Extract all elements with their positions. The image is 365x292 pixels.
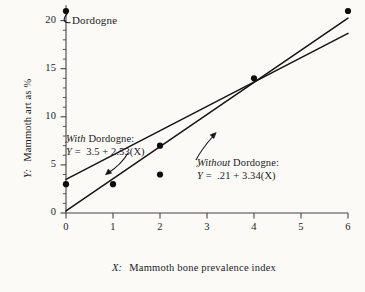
- without-dordogne-equation: ̂Y = .21 + 3.34(X): [197, 170, 279, 182]
- y-axis-variable: Y:: [22, 169, 33, 178]
- data-point: [251, 75, 257, 81]
- x-axis-description: Mammoth bone prevalence index: [129, 262, 276, 273]
- with-dordogne-equation-rest: = 3.5 + 2.53(X): [72, 146, 145, 157]
- x-tick-label: 5: [286, 221, 316, 233]
- plot-canvas: [0, 0, 365, 292]
- without-dordogne-equation-rest: = .21 + 3.34(X): [203, 170, 276, 181]
- data-point: [63, 181, 69, 187]
- data-point: [110, 181, 116, 187]
- x-tick-label: 0: [51, 221, 81, 233]
- x-tick-label: 6: [333, 221, 363, 233]
- with-dordogne-annotation: With Dordogne:̂Y = 3.5 + 2.53(X): [66, 133, 145, 159]
- with-dordogne-emphasis: With: [66, 133, 86, 144]
- x-tick-label: 4: [239, 221, 269, 233]
- without-dordogne-title-rest: Dordogne:: [230, 157, 279, 168]
- y-tick-label: 0: [18, 206, 56, 218]
- x-tick-label: 3: [192, 221, 222, 233]
- y-hat-symbol: ̂Y: [66, 146, 72, 157]
- y-tick-label: 20: [18, 14, 56, 26]
- with-dordogne-equation: ̂Y = 3.5 + 2.53(X): [66, 146, 145, 158]
- tick-mark-layer: [61, 11, 349, 219]
- dordogne-leader-line: [64, 14, 70, 23]
- y-axis-description: Mammoth art as %: [22, 78, 33, 161]
- data-point: [345, 8, 351, 14]
- with-dordogne-arrowhead: [106, 169, 112, 175]
- y-axis-title: Y:Mammoth art as %: [22, 58, 34, 198]
- x-tick-label: 1: [98, 221, 128, 233]
- data-point: [63, 8, 69, 14]
- x-axis-variable: X:: [112, 262, 122, 273]
- x-tick-label: 2: [145, 221, 175, 233]
- without-dordogne-emphasis: Without: [197, 157, 230, 168]
- with-dordogne-title-rest: Dordogne:: [86, 133, 135, 144]
- mammoth-regression-figure: 05101520 0123456 X:Mammoth bone prevalen…: [0, 0, 365, 292]
- data-point: [157, 143, 163, 149]
- y-hat-symbol: ̂Y: [197, 170, 203, 181]
- data-point: [157, 171, 163, 177]
- without-dordogne-annotation: Without Dordogne:̂Y = .21 + 3.34(X): [197, 157, 279, 183]
- dordogne-annotation-label: Dordogne: [72, 14, 117, 27]
- x-axis-title: X:Mammoth bone prevalence index: [112, 262, 276, 274]
